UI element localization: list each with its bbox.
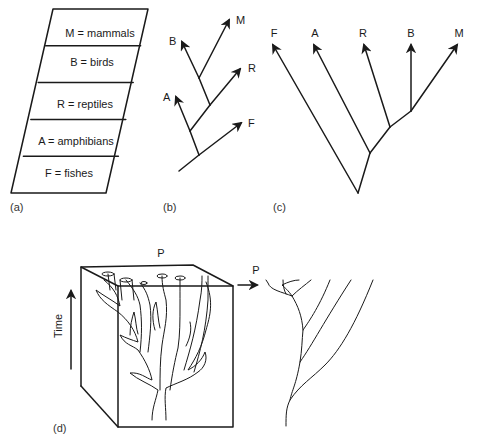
panel-b-caption: (b) bbox=[163, 201, 176, 213]
tip-label-m: M bbox=[236, 14, 245, 26]
lineage-tree bbox=[266, 280, 373, 426]
panel-c-cladogram: F A R B M (c) bbox=[271, 27, 464, 213]
coral-branches bbox=[96, 272, 211, 420]
tip-label-f: F bbox=[271, 27, 278, 39]
tip-label-f: F bbox=[248, 117, 255, 129]
panel-b-ladder-tree: M B R A F (b) bbox=[163, 14, 256, 213]
phylogeny-figure: M = mammals B = birds R = reptiles A = a… bbox=[0, 0, 477, 442]
right-label-p: P bbox=[252, 264, 259, 276]
row-reptiles: R = reptiles bbox=[57, 98, 113, 110]
tip-label-r: R bbox=[359, 27, 367, 39]
panel-d-time-cube: Time P P bbox=[52, 247, 373, 434]
tip-label-a: A bbox=[163, 91, 171, 103]
panel-a-caption: (a) bbox=[10, 201, 23, 213]
top-label-p: P bbox=[157, 247, 164, 259]
row-birds: B = birds bbox=[70, 56, 114, 68]
panel-a-classification-stack: M = mammals B = birds R = reptiles A = a… bbox=[10, 9, 148, 213]
tip-label-m: M bbox=[454, 27, 463, 39]
time-axis-label: Time bbox=[52, 314, 64, 338]
row-fishes: F = fishes bbox=[45, 167, 93, 179]
panel-d-caption: (d) bbox=[53, 422, 66, 434]
row-amphibians: A = amphibians bbox=[38, 135, 114, 147]
tip-label-a: A bbox=[311, 27, 319, 39]
panel-c-caption: (c) bbox=[273, 201, 286, 213]
tip-label-b: B bbox=[407, 27, 414, 39]
tip-label-r: R bbox=[248, 62, 256, 74]
row-mammals: M = mammals bbox=[65, 27, 135, 39]
tip-label-b: B bbox=[169, 35, 176, 47]
